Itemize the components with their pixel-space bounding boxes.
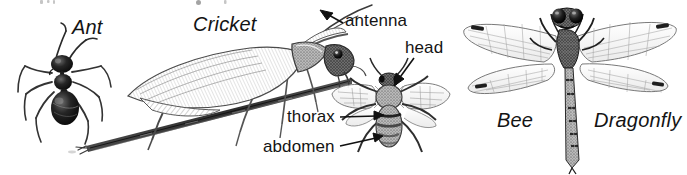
antenna-arrowhead [320,10,333,20]
insect-anatomy-figure: Ant Cricket Bee Dragonfly antenna head t… [0,0,687,175]
part-label-head: head [405,39,443,56]
part-label-antenna: antenna [345,12,407,29]
species-label-bee: Bee [497,110,533,130]
abdomen-leader-line [340,138,376,146]
bee-illustration [332,58,450,152]
part-label-abdomen: abdomen [263,138,335,155]
ant-illustration [18,23,111,153]
dragonfly-illustration [464,8,677,174]
cropped-text-remnants [40,0,227,5]
part-label-thorax: thorax [287,108,335,125]
species-label-cricket: Cricket [193,14,257,34]
thorax-leader-line [340,116,377,117]
illustration-canvas [0,0,687,175]
species-label-dragonfly: Dragonfly [594,110,681,130]
species-label-ant: Ant [72,17,103,37]
